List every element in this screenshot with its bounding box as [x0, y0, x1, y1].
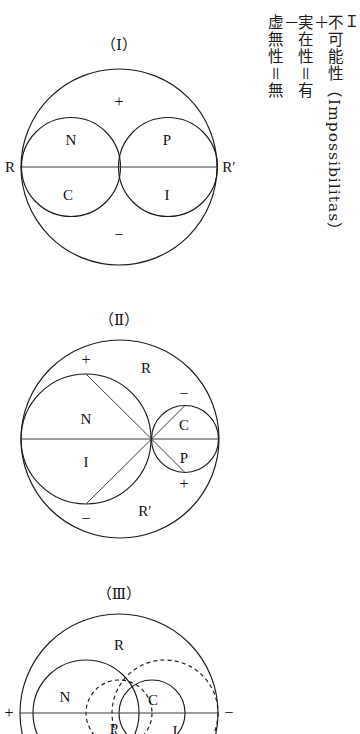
- figure-three-label-P: P: [110, 722, 118, 734]
- page-canvas: （Ⅰ） + − R R′ N C P I Ｉ不可能性（Impossibilita…: [0, 0, 360, 734]
- figure-three-label-I: I: [173, 724, 178, 734]
- figure-three-label-N: N: [60, 690, 71, 705]
- right-dashed-circle-I: [112, 660, 218, 734]
- figure-three-label-R: R: [114, 638, 124, 653]
- figure-three-label-C: C: [148, 693, 158, 708]
- figure-three-graphic: [0, 0, 360, 734]
- figure-three-plus-left: +: [4, 705, 13, 721]
- figure-three-minus-right: −: [224, 705, 233, 721]
